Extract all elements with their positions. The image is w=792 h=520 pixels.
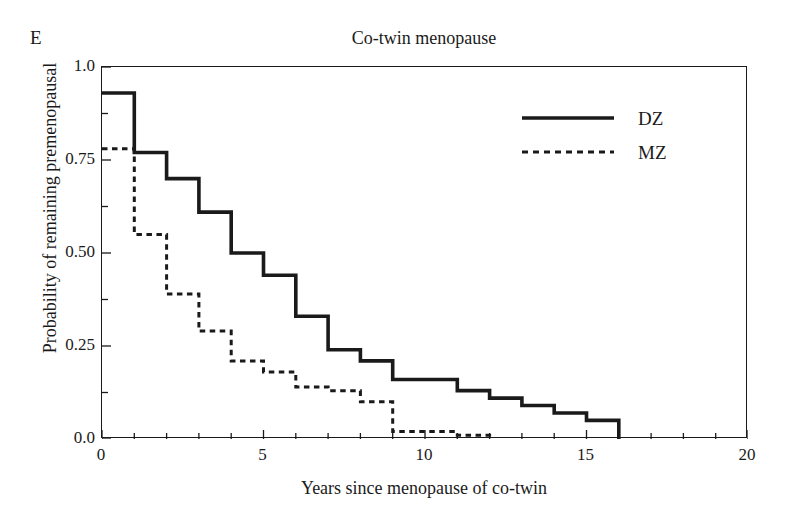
legend-label-mz: MZ	[638, 143, 667, 162]
x-axis-title: Years since menopause of co-twin	[101, 478, 747, 498]
legend-item-mz: MZ	[520, 135, 730, 169]
legend: DZ MZ	[520, 101, 730, 169]
legend-item-dz: DZ	[520, 101, 730, 135]
x-tick-label: 15	[566, 446, 606, 463]
legend-label-dz: DZ	[638, 109, 663, 128]
x-tick-label: 5	[243, 446, 283, 463]
x-tick-labels: 05101520	[0, 0, 792, 520]
x-tick-label: 20	[727, 446, 767, 463]
figure-panel: E Co-twin menopause 0.00.250.500.751.0 0…	[0, 0, 792, 520]
legend-line-solid-icon	[520, 111, 616, 125]
x-tick-label: 0	[81, 446, 121, 463]
legend-line-dashed-icon	[520, 145, 616, 159]
y-axis-title: Probability of remaining premenopausal	[40, 0, 60, 418]
x-tick-label: 10	[404, 446, 444, 463]
